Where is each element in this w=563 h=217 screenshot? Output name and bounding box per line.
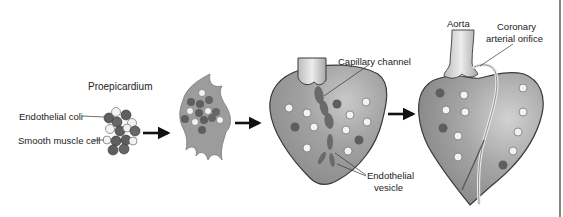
label-coronary-line2: arterial orifice [486, 33, 543, 44]
proepicardium-cluster [103, 108, 140, 156]
label-proepicardium: Proepicardium [88, 81, 152, 92]
label-aorta: Aorta [447, 18, 470, 29]
early-heart [270, 58, 387, 184]
label-endothelial-cell: Endothelial coli [19, 111, 83, 122]
migrating-tissue [180, 74, 231, 160]
label-capillary-channel: Capillary channel [338, 56, 411, 67]
coronary-orifice-leader [480, 44, 513, 66]
label-smooth-muscle-cell: Smooth muscle cell [18, 135, 100, 146]
diagram-figure: Proepicardium Endothelial coli Smooth mu… [0, 0, 563, 217]
label-coronary-line1: Coronary [497, 21, 536, 32]
label-endothelial-vesicle-1: Endothelial [367, 170, 414, 181]
endothelial-cell-leader [82, 116, 104, 117]
diagram-canvas [0, 0, 563, 217]
mature-heart [419, 30, 544, 205]
label-endothelial-vesicle-2: vesicle [374, 182, 403, 193]
